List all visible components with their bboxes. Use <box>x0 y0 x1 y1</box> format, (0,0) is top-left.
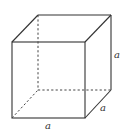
cube-diagram: a a a <box>0 0 122 134</box>
width-label: a <box>45 120 51 131</box>
front-face <box>12 42 85 118</box>
top-left-edge <box>12 15 38 42</box>
height-label: a <box>114 49 120 60</box>
hidden-bottom-left-edge <box>12 90 38 118</box>
depth-label: a <box>100 102 106 113</box>
bottom-right-edge <box>85 90 111 118</box>
top-right-edge <box>85 15 111 42</box>
